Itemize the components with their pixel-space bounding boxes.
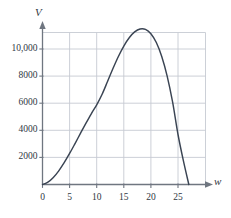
x-tick-label: 20 [139,193,163,203]
y-tick-label: 8000 [19,71,38,81]
x-tick-label: 15 [112,193,136,203]
x-tick-label: 25 [166,193,190,203]
data-curve-group [43,29,189,185]
y-axis-label: V [35,7,42,18]
plot-canvas [0,0,231,218]
x-tick-label: 10 [85,193,109,203]
x-tick-label: 5 [58,193,82,203]
gridlines-group [43,33,206,185]
y-axis-arrowhead [39,21,45,29]
x-axis-label: w [214,176,221,187]
tickmarks-group [39,49,178,188]
x-axis-arrowhead [205,181,213,187]
x-tick-label: 0 [31,193,55,203]
y-tick-label: 6000 [19,98,38,108]
chart-figure: V w 200040006000800010,000 0510152025 [0,0,231,218]
y-tick-label: 4000 [19,125,38,135]
y-tick-label: 2000 [19,152,38,162]
axes-group [39,21,213,188]
data-curve [43,29,189,185]
y-tick-label: 10,000 [11,44,37,54]
